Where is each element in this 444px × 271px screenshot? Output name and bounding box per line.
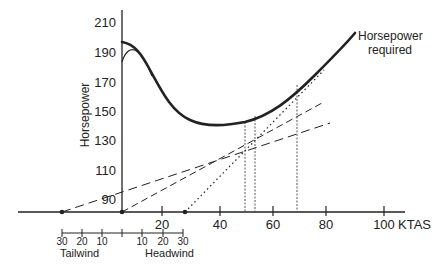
x-tick-60: 60 [266, 217, 280, 232]
power-required-chart: 210 190 170 150 130 110 90 Horsepower 20… [0, 0, 444, 271]
x-tick-20: 20 [155, 217, 169, 232]
headwind-tick-30: 30 [177, 236, 189, 247]
power-curve-low-branch [122, 50, 152, 76]
tailwind-tick-10: 10 [96, 236, 108, 247]
headwind-tick-20: 20 [157, 236, 169, 247]
tangent-line-zero-wind [122, 103, 322, 212]
wind-scale: 30 20 10 10 20 30 Tailwind Headwind [56, 229, 193, 259]
power-required-curve [122, 33, 355, 125]
tailwind-tick-30: 30 [56, 236, 68, 247]
x-ticks [162, 206, 384, 216]
tailwind-label: Tailwind [60, 247, 99, 259]
x-axis-title: KTAS [398, 217, 431, 232]
x-tick-100: 100 [373, 217, 395, 232]
y-axis-title: Horsepower [78, 83, 92, 148]
x-tick-80: 80 [319, 217, 333, 232]
x-tick-40: 40 [213, 217, 227, 232]
y-tick-190: 190 [94, 45, 116, 60]
y-tick-110: 110 [95, 163, 116, 178]
curve-label-line2: required [368, 43, 412, 57]
y-tick-labels: 210 190 170 150 130 110 90 [94, 15, 116, 207]
headwind-label: Headwind [145, 247, 194, 259]
headwind-tick-10: 10 [136, 236, 148, 247]
y-tick-210: 210 [94, 15, 116, 30]
y-tick-90: 90 [102, 192, 116, 207]
tangent-line-headwind [185, 70, 324, 212]
x-tick-labels: 20 40 60 80 100 [155, 217, 395, 232]
tailwind-tick-20: 20 [76, 236, 88, 247]
y-tick-150: 150 [94, 104, 116, 119]
y-tick-130: 130 [94, 133, 116, 148]
y-tick-170: 170 [94, 75, 116, 90]
curve-label-line1: Horsepower [358, 29, 423, 43]
